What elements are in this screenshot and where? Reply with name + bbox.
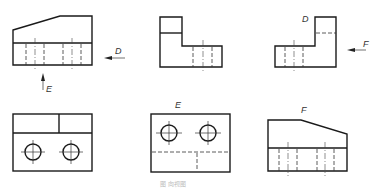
arrow-label-e: E	[46, 84, 53, 94]
arrowhead-icon	[347, 48, 355, 52]
arrowhead-icon	[104, 56, 112, 60]
direction-arrow-e: E	[41, 73, 53, 94]
arrowhead-icon	[41, 73, 45, 81]
view-f: F	[268, 105, 347, 176]
drawing-canvas: D E D F E	[0, 0, 381, 190]
view-label-d: D	[302, 14, 309, 24]
top-view	[13, 114, 92, 171]
view-label-e: E	[175, 100, 182, 110]
view-e: E	[151, 100, 230, 172]
view-d: D	[275, 14, 336, 73]
arrow-label-f: F	[363, 39, 369, 49]
figure-caption: 图 向视图	[160, 180, 186, 188]
direction-arrow-f: F	[347, 39, 369, 52]
arrow-label-d: D	[115, 46, 122, 56]
left-view	[160, 17, 222, 73]
view-label-f: F	[301, 105, 307, 115]
direction-arrow-d: D	[104, 46, 125, 60]
main-view	[13, 16, 92, 70]
